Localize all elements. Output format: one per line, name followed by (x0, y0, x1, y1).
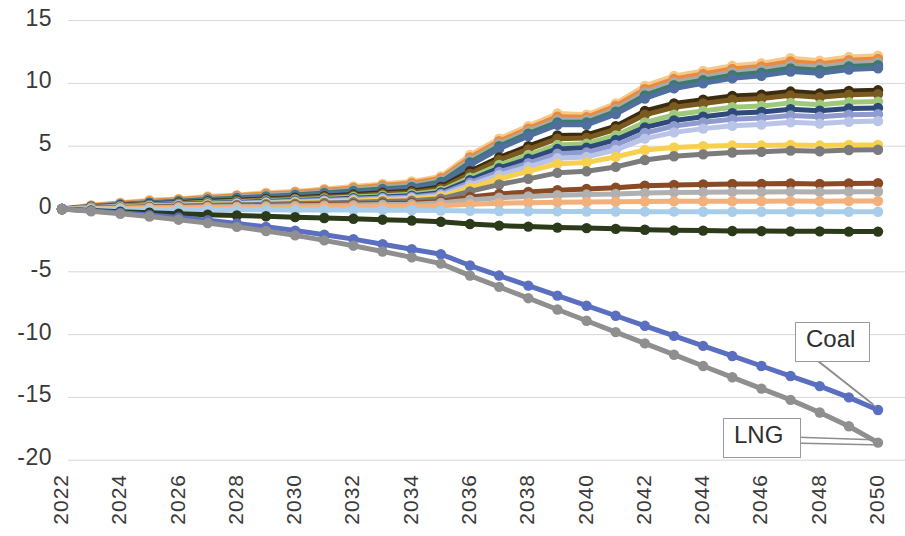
data-point (669, 350, 679, 360)
data-point (785, 207, 795, 217)
chart-container: 151050-5-10-15-20 2022202420262028203020… (0, 0, 905, 536)
data-point (552, 206, 562, 216)
data-point (523, 206, 533, 216)
data-point (844, 117, 854, 127)
data-point (873, 437, 883, 447)
data-point (669, 127, 679, 137)
x-tick-label: 2042 (632, 474, 656, 525)
x-tick-label: 2036 (457, 474, 481, 525)
data-point (698, 149, 708, 159)
data-point (581, 316, 591, 326)
data-point (523, 221, 533, 231)
data-point (494, 282, 504, 292)
x-tick-label: 2022 (49, 474, 73, 525)
data-point (669, 83, 679, 93)
data-point (844, 392, 854, 402)
data-point (203, 218, 213, 228)
data-point (377, 205, 387, 215)
data-point (756, 71, 766, 81)
callout-leader-lng2 (791, 443, 882, 445)
data-point (756, 187, 766, 197)
data-point (727, 187, 737, 197)
data-point (611, 109, 621, 119)
data-point (523, 293, 533, 303)
y-tick-label: -5 (0, 256, 52, 283)
data-point (698, 78, 708, 88)
data-point (144, 211, 154, 221)
data-point (815, 381, 825, 391)
data-point (756, 119, 766, 129)
data-point (494, 270, 504, 280)
data-point (611, 197, 621, 207)
data-point (552, 159, 562, 169)
data-point (669, 225, 679, 235)
data-point (698, 207, 708, 217)
data-point (407, 252, 417, 262)
data-point (611, 206, 621, 216)
data-point (873, 116, 883, 126)
x-tick-label: 2048 (807, 474, 831, 525)
data-point (581, 206, 591, 216)
data-point (523, 280, 533, 290)
data-point (873, 226, 883, 236)
data-point (669, 187, 679, 197)
x-tick-label: 2040 (574, 474, 598, 525)
data-point (844, 421, 854, 431)
data-point (815, 187, 825, 197)
data-point (611, 162, 621, 172)
data-point (873, 145, 883, 155)
data-point (727, 207, 737, 217)
data-point (815, 407, 825, 417)
data-point (173, 214, 183, 224)
y-tick-label: 15 (0, 5, 52, 32)
data-point (727, 196, 737, 206)
data-point (785, 66, 795, 76)
data-point (756, 196, 766, 206)
data-point (436, 258, 446, 268)
data-point (669, 206, 679, 216)
data-point (844, 207, 854, 217)
data-point (377, 246, 387, 256)
data-point (815, 226, 825, 236)
data-point (873, 186, 883, 196)
data-point (261, 226, 271, 236)
data-point (698, 187, 708, 197)
data-point (640, 133, 650, 143)
data-point (552, 304, 562, 314)
x-tick-label: 2038 (515, 474, 539, 525)
data-point (115, 209, 125, 219)
data-point (785, 196, 795, 206)
data-point (232, 222, 242, 232)
data-point (727, 73, 737, 83)
y-tick-label: 10 (0, 67, 52, 94)
data-point (669, 196, 679, 206)
data-point (436, 217, 446, 227)
data-point (494, 179, 504, 189)
data-point (319, 235, 329, 245)
data-point (348, 240, 358, 250)
data-point (873, 196, 883, 206)
data-point (844, 186, 854, 196)
data-point (727, 147, 737, 157)
data-point (290, 230, 300, 240)
data-point (873, 207, 883, 217)
data-point (756, 361, 766, 371)
data-point (552, 222, 562, 232)
callout-coal: Coal (795, 322, 870, 362)
data-point (319, 213, 329, 223)
data-point (261, 211, 271, 221)
data-point (465, 219, 475, 229)
data-point (57, 204, 67, 214)
data-point (815, 118, 825, 128)
data-point (844, 226, 854, 236)
data-point (436, 249, 446, 259)
data-point (785, 186, 795, 196)
y-tick-label: 0 (0, 193, 52, 220)
data-point (756, 383, 766, 393)
callout-lng: LNG (723, 418, 801, 458)
data-point (581, 223, 591, 233)
data-point (815, 146, 825, 156)
data-point (815, 68, 825, 78)
x-tick-label: 2034 (399, 474, 423, 525)
data-point (785, 117, 795, 127)
